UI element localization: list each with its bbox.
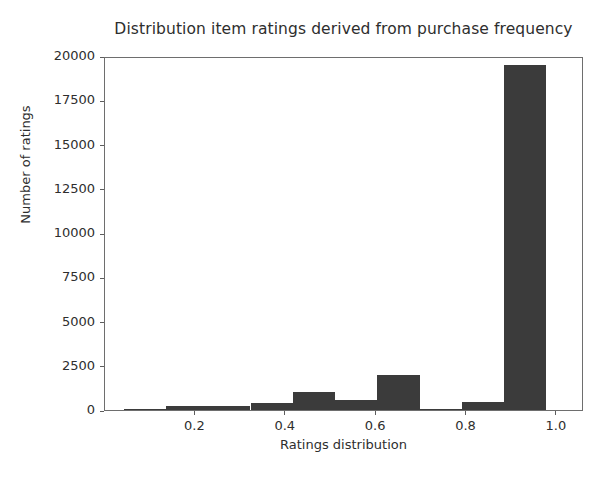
plot-area	[104, 57, 583, 411]
histogram-bar	[335, 400, 377, 410]
histogram-bar	[293, 392, 335, 410]
histogram-bars	[105, 58, 582, 410]
y-axis-tick-label: 7500	[62, 269, 95, 284]
y-axis-tick-label: 20000	[54, 48, 95, 63]
x-axis-label: Ratings distribution	[104, 437, 583, 452]
y-axis-tick-label: 2500	[62, 358, 95, 373]
y-axis-tick-label: 10000	[54, 225, 95, 240]
x-axis-tick-label: 0.2	[164, 418, 224, 433]
y-axis-tick-label: 17500	[54, 92, 95, 107]
chart-title: Distribution item ratings derived from p…	[104, 20, 583, 38]
y-axis-tick-label: 15000	[54, 137, 95, 152]
x-axis-tick-mark	[375, 411, 376, 415]
chart-figure: Distribution item ratings derived from p…	[0, 0, 612, 477]
histogram-bar	[208, 406, 250, 410]
y-axis-label: Number of ratings	[18, 65, 33, 265]
histogram-bar	[420, 409, 462, 410]
x-axis-tick-mark	[465, 411, 466, 415]
y-axis: 02500500075001000012500150001750020000	[0, 57, 104, 411]
x-axis-tick-mark	[194, 411, 195, 415]
histogram-bar	[504, 65, 546, 410]
x-axis-tick-label: 0.6	[345, 418, 405, 433]
y-axis-tick-label: 5000	[62, 314, 95, 329]
histogram-bar	[251, 403, 293, 410]
x-axis-tick-label: 0.8	[436, 418, 496, 433]
histogram-bar	[462, 402, 504, 410]
x-axis-tick-label: 1.0	[526, 418, 586, 433]
histogram-bar	[377, 375, 419, 410]
x-axis-tick-label: 0.4	[255, 418, 315, 433]
y-axis-tick-label: 12500	[54, 181, 95, 196]
x-axis-tick-mark	[284, 411, 285, 415]
x-axis-tick-mark	[555, 411, 556, 415]
y-axis-tick-label: 0	[87, 402, 95, 417]
histogram-bar	[124, 409, 166, 410]
histogram-bar	[166, 406, 208, 410]
